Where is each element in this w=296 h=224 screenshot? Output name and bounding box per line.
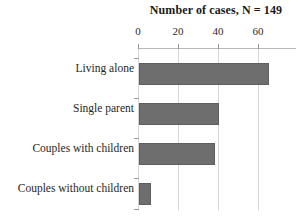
y-category-label-couples-with-children: Couples with children bbox=[0, 142, 134, 154]
chart-title: Number of cases, N = 149 bbox=[136, 3, 296, 18]
bar-chart: Number of cases, N = 149 0 20 40 60 Livi… bbox=[0, 0, 296, 224]
y-tickmark-1 bbox=[134, 98, 139, 99]
top-axis-line bbox=[138, 48, 296, 49]
y-category-label-single-parent: Single parent bbox=[0, 102, 134, 114]
y-category-label-living-alone: Living alone bbox=[0, 62, 134, 74]
bar-couples-with-children bbox=[139, 143, 215, 165]
y-category-label-couples-without-children: Couples without children bbox=[0, 182, 134, 194]
x-tickmark-0 bbox=[138, 44, 139, 49]
x-axis-tick-labels: 0 20 40 60 bbox=[0, 24, 296, 40]
x-tickmark-60 bbox=[258, 44, 259, 49]
y-tickmark-3 bbox=[134, 178, 139, 179]
y-tickmark-0 bbox=[134, 58, 139, 59]
bar-living-alone bbox=[139, 63, 269, 85]
x-tick-label-20: 20 bbox=[173, 24, 184, 38]
x-tick-label-60: 60 bbox=[253, 24, 264, 38]
y-tickmark-4 bbox=[134, 209, 139, 210]
bar-couples-without-children bbox=[139, 183, 151, 205]
x-tick-label-0: 0 bbox=[135, 24, 141, 38]
x-tick-label-40: 40 bbox=[213, 24, 224, 38]
x-tickmark-40 bbox=[218, 44, 219, 49]
bar-single-parent bbox=[139, 103, 219, 125]
y-tickmark-2 bbox=[134, 138, 139, 139]
x-tickmark-20 bbox=[178, 44, 179, 49]
plot-area bbox=[138, 48, 296, 210]
